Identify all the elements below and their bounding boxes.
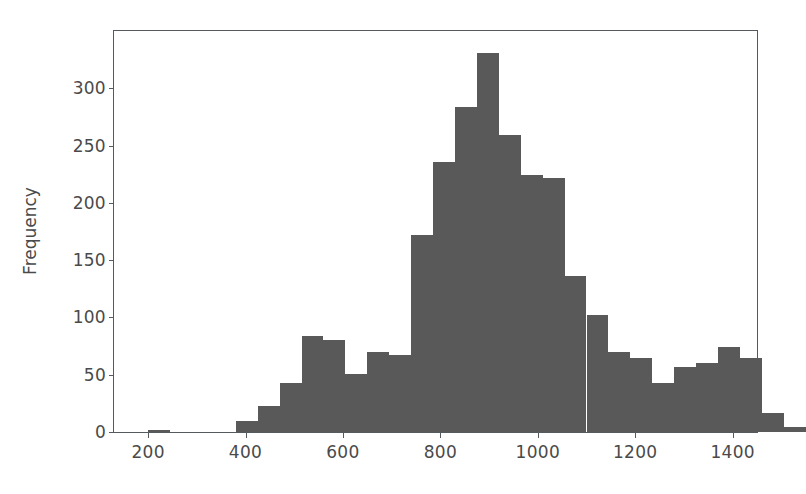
histogram-bar: [455, 107, 477, 432]
histogram-bar: [740, 358, 762, 432]
histogram-bar: [784, 427, 806, 432]
histogram-bar: [587, 315, 609, 432]
x-axis-tick-label: 800: [424, 442, 457, 462]
histogram-bar: [236, 421, 258, 432]
x-axis-tick-label: 1000: [516, 442, 560, 462]
x-axis-tick: [538, 432, 539, 438]
histogram-bars: [114, 31, 757, 432]
y-axis-tick: [109, 146, 114, 147]
histogram-bar: [565, 276, 587, 432]
y-axis-tick: [109, 203, 114, 204]
histogram-bar: [543, 178, 565, 432]
y-axis-tick-label: 300: [73, 78, 106, 98]
y-axis-tick-label: 50: [84, 365, 106, 385]
y-axis-tick-label: 100: [73, 307, 106, 327]
y-axis-tick-label: 150: [73, 250, 106, 270]
histogram-bar: [323, 340, 345, 432]
x-axis-tick-label: 400: [229, 442, 262, 462]
histogram-bar: [696, 363, 718, 432]
x-axis-tick: [343, 432, 344, 438]
histogram-bar: [367, 352, 389, 432]
histogram-bar: [499, 135, 521, 432]
y-axis-tick-label: 0: [95, 422, 106, 442]
x-axis-tick-label: 1200: [613, 442, 657, 462]
y-axis-tick-label: 200: [73, 193, 106, 213]
y-axis-tick: [109, 317, 114, 318]
x-axis-tick: [246, 432, 247, 438]
y-axis-label: Frequency: [20, 187, 40, 275]
x-axis-tick-label: 600: [326, 442, 359, 462]
x-axis-tick: [733, 432, 734, 438]
histogram-bar: [477, 53, 499, 432]
histogram-bar: [411, 235, 433, 432]
y-axis-tick-label: 250: [73, 136, 106, 156]
histogram-bar: [630, 358, 652, 432]
histogram-bar: [762, 413, 784, 432]
histogram-bar: [148, 430, 170, 432]
y-axis-tick: [109, 432, 114, 433]
x-axis-tick: [440, 432, 441, 438]
histogram-bar: [718, 347, 740, 432]
histogram-bar: [608, 352, 630, 432]
histogram-bar: [345, 374, 367, 432]
histogram-bar: [674, 367, 696, 432]
x-axis-tick-label: 1400: [710, 442, 754, 462]
x-axis-tick: [635, 432, 636, 438]
x-axis-tick-label: 200: [131, 442, 164, 462]
y-axis-tick: [109, 260, 114, 261]
x-axis-tick: [148, 432, 149, 438]
histogram-bar: [652, 383, 674, 432]
y-axis-tick: [109, 88, 114, 89]
histogram-bar: [302, 336, 324, 432]
histogram-bar: [389, 355, 411, 432]
plot-area: 0501001502002503002004006008001000120014…: [113, 30, 758, 433]
histogram-bar: [521, 175, 543, 432]
y-axis-tick: [109, 375, 114, 376]
histogram-bar: [280, 383, 302, 432]
histogram-bar: [433, 162, 455, 432]
histogram-bar: [258, 406, 280, 432]
